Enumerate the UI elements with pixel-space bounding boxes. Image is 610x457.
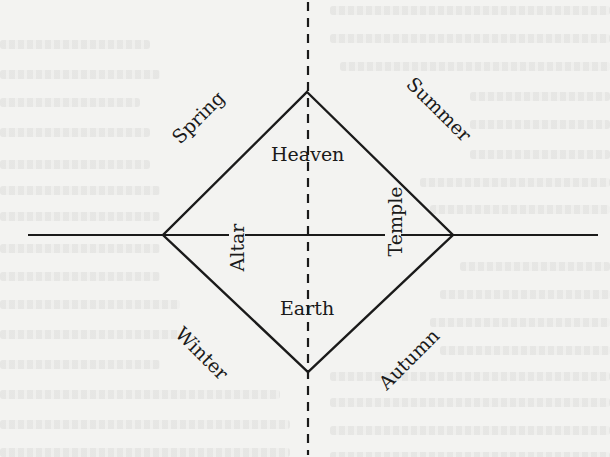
label-heaven: Heaven bbox=[271, 145, 344, 164]
label-altar: Altar bbox=[228, 224, 247, 272]
label-temple: Temple bbox=[386, 187, 405, 257]
label-earth: Earth bbox=[280, 299, 334, 318]
heaven-earth-diagram bbox=[0, 0, 610, 457]
